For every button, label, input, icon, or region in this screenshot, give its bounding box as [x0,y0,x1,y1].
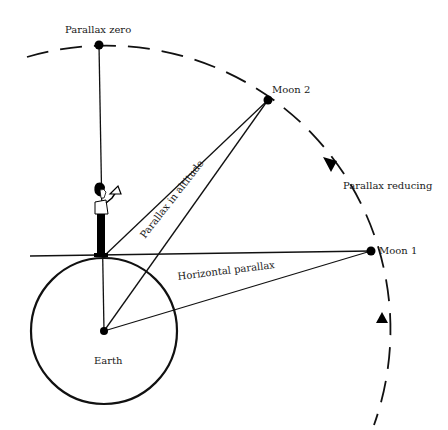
orbit-arrow-lower-icon [376,312,388,323]
label-parallax-zero: Parallax zero [65,24,131,35]
label-parallax-in-altitude: Parallax in altitude [138,158,206,241]
lunar-parallax-diagram: Parallax zero Moon 2 Moon 1 Parallax red… [0,0,448,430]
observer-figure-icon [94,183,121,258]
moon2-dot [264,96,273,105]
moon-orbit-arc [27,46,390,425]
horizon-line [30,251,371,256]
label-parallax-reducing: Parallax reducing [343,180,433,191]
label-horizontal-parallax: Horizontal parallax [177,259,276,282]
parallax-zero-dot [95,41,104,50]
label-moon2: Moon 2 [272,84,310,95]
moon1-dot [367,247,376,256]
earth-center-dot [100,327,108,335]
orbit-arrow-upper-icon [323,157,337,172]
label-moon1: Moon 1 [379,245,417,256]
label-earth: Earth [94,355,123,366]
center-moon2-line [104,100,268,331]
